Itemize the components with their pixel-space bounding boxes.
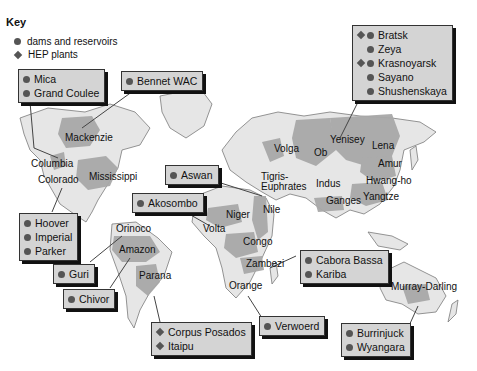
circle-marker-icon xyxy=(24,220,31,227)
dam-name: Bennet WAC xyxy=(137,74,197,88)
circle-marker-icon xyxy=(68,296,75,303)
dam-name: Zeya xyxy=(378,42,401,56)
river-label-yangtze: Yangtze xyxy=(363,191,399,202)
circle-marker-icon xyxy=(305,271,312,278)
circle-marker-icon xyxy=(126,78,133,85)
river-label-zambezi: Zambezi xyxy=(246,258,284,269)
river-label-lena: Lena xyxy=(372,140,394,151)
callout-akosombo: Akosombo xyxy=(132,193,204,213)
circle-marker-icon xyxy=(346,330,353,337)
dam-name: Wyangara xyxy=(357,340,405,354)
dam-name: Aswan xyxy=(181,168,213,182)
diamond-marker-icon xyxy=(357,31,365,39)
dam-name: Chivor xyxy=(79,292,109,306)
dam-name: Bratsk xyxy=(378,28,408,42)
river-label-yenisey: Yenisey xyxy=(330,134,365,145)
callout-verwoerd: Verwoerd xyxy=(259,316,325,336)
circle-marker-icon xyxy=(346,344,353,351)
dam-name: Akosombo xyxy=(148,196,198,210)
circle-marker-icon xyxy=(24,234,31,241)
river-label-volta: Volta xyxy=(203,223,225,234)
river-label-ob: Ob xyxy=(314,147,327,158)
circle-marker-icon xyxy=(367,88,374,95)
callout-guri: Guri xyxy=(53,264,95,284)
dam-name: Itaipu xyxy=(168,339,194,353)
dam-name: Burrinjuck xyxy=(357,326,404,340)
river-label-indus: Indus xyxy=(316,178,340,189)
river-label-murray-darling: Murray-Darling xyxy=(391,281,457,292)
river-label-amur: Amur xyxy=(378,158,402,169)
callout-burrinjuck-wyangara: Burrinjuck Wyangara xyxy=(341,323,411,357)
landmass-new-zealand xyxy=(448,300,458,322)
circle-marker-icon xyxy=(58,271,65,278)
circle-marker-icon xyxy=(367,60,374,67)
circle-marker-icon xyxy=(23,76,30,83)
callout-bennet-wac: Bennet WAC xyxy=(121,71,203,91)
dam-name: Corpus Posados xyxy=(168,325,246,339)
river-label-ganges: Ganges xyxy=(326,195,361,206)
dam-name: Guri xyxy=(69,267,89,281)
circle-marker-icon xyxy=(170,172,177,179)
callout-cabora-bassa-kariba: Cabora Bassa Kariba xyxy=(300,250,389,284)
river-label-mackenzie: Mackenzie xyxy=(65,132,113,143)
dam-name: Kariba xyxy=(316,267,346,281)
leader-parana xyxy=(154,296,160,322)
dam-name: Imperial xyxy=(35,230,72,244)
callout-mica-grand-coulee: Mica Grand Coulee xyxy=(18,69,105,103)
river-label-mississippi: Mississippi xyxy=(89,171,137,182)
dam-name: Cabora Bassa xyxy=(316,253,383,267)
river-label-parana: Parana xyxy=(139,270,171,281)
river-label-columbia: Columbia xyxy=(31,158,73,169)
river-label-hwang-ho: Hwang-ho xyxy=(366,175,412,186)
circle-marker-icon xyxy=(367,32,374,39)
dam-name: Mica xyxy=(34,72,56,86)
dam-name: Grand Coulee xyxy=(34,86,99,100)
dam-name: Parker xyxy=(35,244,66,258)
river-label-nile: Nile xyxy=(263,204,280,215)
river-label-congo: Congo xyxy=(243,236,272,247)
callout-chivor: Chivor xyxy=(63,289,115,309)
circle-marker-icon xyxy=(305,257,312,264)
river-label-amazon: Amazon xyxy=(119,244,156,255)
river-label-volga: Volga xyxy=(274,143,299,154)
river-label-niger: Niger xyxy=(226,209,250,220)
landmass-japan xyxy=(410,146,418,170)
landmass-greenland xyxy=(160,88,212,138)
dam-name: Shushenskaya xyxy=(378,84,447,98)
dam-name: Sayano xyxy=(378,70,414,84)
dam-name: Krasnoyarsk xyxy=(378,56,436,70)
river-label-colorado: Colorado xyxy=(38,174,79,185)
dam-name: Hoover xyxy=(35,216,69,230)
callout-corpus-posados-itaipu: Corpus Posados Itaipu xyxy=(151,322,252,356)
diamond-marker-icon xyxy=(156,342,164,350)
leader-verwoerd xyxy=(248,296,262,318)
callout-hoover-imperial-parker: Hoover Imperial Parker xyxy=(19,213,78,261)
diamond-marker-icon xyxy=(156,328,164,336)
circle-marker-icon xyxy=(367,74,374,81)
circle-marker-icon xyxy=(367,46,374,53)
circle-marker-icon xyxy=(24,248,31,255)
circle-marker-icon xyxy=(137,200,144,207)
dam-name: Verwoerd xyxy=(275,319,319,333)
callout-aswan: Aswan xyxy=(165,165,219,185)
landmass-indonesia xyxy=(368,232,408,250)
circle-marker-icon xyxy=(264,323,271,330)
circle-marker-icon xyxy=(23,90,30,97)
diamond-marker-icon xyxy=(357,59,365,67)
river-label-orinoco: Orinoco xyxy=(116,223,151,234)
callout-siberia: Bratsk Zeya Krasnoyarsk Sayano Shushensk… xyxy=(352,25,453,101)
river-label-orange: Orange xyxy=(229,280,262,291)
river-label-euphrates: Euphrates xyxy=(261,181,307,192)
